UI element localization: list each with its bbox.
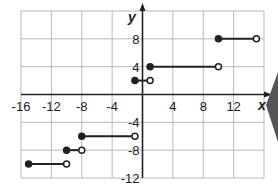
- open-dot-icon: [253, 36, 259, 42]
- tick-labels: -16-12-8-4481284-4-8-12: [12, 32, 241, 186]
- closed-dot-icon: [79, 133, 85, 139]
- closed-dot-icon: [132, 78, 138, 84]
- closed-dot-icon: [64, 147, 70, 153]
- y-tick-label: -4: [128, 115, 140, 130]
- page-edge-marker: [266, 72, 278, 142]
- y-axis-arrow-icon: [140, 3, 146, 11]
- y-tick-label: 8: [132, 32, 139, 47]
- x-tick-label: 8: [200, 99, 207, 114]
- step-segment: [64, 147, 85, 153]
- open-dot-icon: [64, 161, 70, 167]
- x-tick-label: 12: [226, 99, 240, 114]
- step-function-chart: -16-12-8-4481284-4-8-12 x y: [0, 0, 278, 192]
- closed-dot-icon: [215, 36, 221, 42]
- open-dot-icon: [79, 147, 85, 153]
- step-segment: [26, 161, 70, 167]
- closed-dot-icon: [147, 64, 153, 70]
- y-tick-label: -8: [128, 143, 140, 158]
- x-tick-label: -16: [12, 99, 31, 114]
- y-tick-label: 4: [132, 60, 139, 75]
- step-segment: [79, 133, 138, 139]
- x-tick-label: 4: [169, 99, 176, 114]
- open-dot-icon: [215, 64, 221, 70]
- step-segment: [215, 36, 259, 42]
- open-dot-icon: [147, 78, 153, 84]
- x-tick-label: -12: [42, 99, 61, 114]
- x-tick-label: -8: [76, 99, 88, 114]
- y-axis-label: y: [127, 9, 137, 25]
- step-segment: [147, 64, 221, 70]
- x-tick-label: -4: [106, 99, 118, 114]
- y-tick-label: -12: [121, 171, 140, 186]
- axes: [21, 3, 272, 178]
- closed-dot-icon: [26, 161, 32, 167]
- open-dot-icon: [132, 133, 138, 139]
